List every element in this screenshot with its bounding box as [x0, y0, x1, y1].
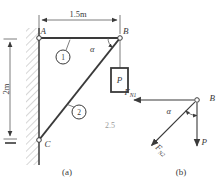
joint-b: [118, 36, 123, 41]
label-b-fbd: B: [210, 93, 216, 103]
part-b-free-body: α B FN1 FN2 P (b): [124, 87, 216, 177]
dimension-height-label: 2m: [1, 83, 11, 94]
force-fn2-arrow: [152, 102, 195, 145]
figure-canvas: 1.5m 2m α P A B C 1 2 2.5: [0, 0, 221, 192]
caption-a: (a): [62, 167, 72, 177]
angle-arc: [108, 38, 113, 47]
angle-label-b: α: [167, 106, 172, 116]
part-a-bracket: 1.5m 2m α P A B C 1 2 2.5: [1, 9, 130, 177]
dimension-width-label: 1.5m: [69, 9, 87, 19]
force-fn2-label: FN2: [152, 141, 169, 158]
force-fn1-label: FN1: [124, 87, 137, 98]
angle-arc-b: [186, 111, 197, 116]
joint-b-fbd: [195, 98, 200, 103]
member-1-tag: 1: [61, 53, 65, 62]
member-2-tag: 2: [77, 108, 81, 117]
figure-note: 2.5: [105, 121, 115, 130]
label-c: C: [45, 139, 52, 149]
label-a: A: [40, 26, 47, 36]
joint-a: [37, 36, 42, 41]
force-p-label: P: [201, 137, 208, 147]
tag1-leader: [66, 40, 70, 51]
weight-label: P: [116, 75, 123, 85]
wall-hatching: [26, 28, 39, 165]
tag2-leader: [68, 105, 75, 108]
angle-label: α: [90, 44, 95, 54]
label-b: B: [123, 26, 129, 36]
joint-c: [37, 138, 42, 143]
caption-b: (b): [176, 167, 187, 177]
statics-diagram: 1.5m 2m α P A B C 1 2 2.5: [0, 0, 221, 192]
